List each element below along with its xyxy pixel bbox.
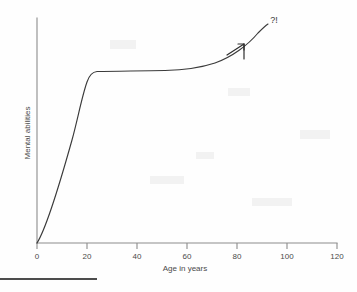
x-tick-label-60: 60 [183, 252, 192, 261]
scan-noise [110, 40, 330, 206]
mental-abilities-curve [37, 24, 268, 243]
y-axis-title: Mental abilities [23, 107, 32, 160]
x-tick-label-0: 0 [35, 252, 40, 261]
x-tick-label-120: 120 [330, 252, 344, 261]
x-axis-tick-labels: 0 20 40 60 80 100 120 [35, 252, 344, 261]
x-tick-label-40: 40 [133, 252, 142, 261]
x-axis-ticks [37, 243, 337, 249]
x-tick-label-100: 100 [280, 252, 294, 261]
scan-artifact-rule [0, 278, 97, 280]
x-axis-title: Age in years [163, 264, 207, 273]
mental-abilities-line-chart: 0 20 40 60 80 100 120 Age in years Menta… [0, 0, 357, 292]
chart-page: 0 20 40 60 80 100 120 Age in years Menta… [0, 0, 357, 292]
question-exclamation-annotation: ?! [270, 15, 278, 25]
x-tick-label-20: 20 [83, 252, 92, 261]
x-tick-label-80: 80 [233, 252, 242, 261]
